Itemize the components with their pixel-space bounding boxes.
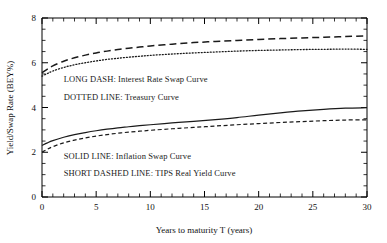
legend-label-solid: SOLID LINE: Inflation Swap Curve [64,151,191,161]
x-tick-label: 30 [363,202,373,212]
x-tick-label: 10 [146,202,156,212]
x-tick-label: 25 [308,202,318,212]
y-tick-label: 4 [32,103,37,113]
x-tick-label: 20 [254,202,264,212]
x-tick-label: 0 [40,202,45,212]
y-tick-label: 8 [32,13,37,23]
y-tick-label: 2 [32,147,37,157]
legend-label-long-dash: LONG DASH: Interest Rate Swap Curve [64,74,208,84]
chart-figure: 051015202530 02468 LONG DASH: Interest R… [0,0,387,243]
y-axis-title: Yield/Swap Rate (BEY%) [5,61,15,155]
x-tick-label: 5 [94,202,99,212]
x-tick-label: 15 [200,202,210,212]
chart-plot-area: 051015202530 02468 LONG DASH: Interest R… [0,0,387,243]
x-axis-title: Years to maturity T (years) [156,225,253,235]
y-tick-label: 6 [32,58,37,68]
y-tick-label: 0 [32,192,37,202]
legend-label-short-dashed: SHORT DASHED LINE: TIPS Real Yield Curve [64,168,236,178]
legend-label-dotted: DOTTED LINE: Treasury Curve [64,92,179,102]
